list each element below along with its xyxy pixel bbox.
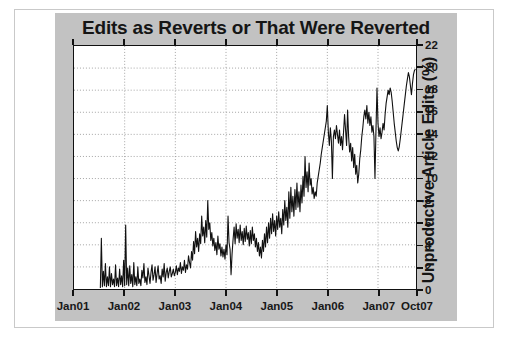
x-axis-tick-mark-top xyxy=(225,39,227,45)
y-axis-title: Unproductive Article Edits (%) xyxy=(418,0,440,33)
x-axis-tick-mark xyxy=(327,290,329,296)
x-axis-tick-mark xyxy=(225,290,227,296)
x-axis-tick-mark xyxy=(378,290,380,296)
x-axis-tick-mark-top xyxy=(327,39,329,45)
x-axis-tick-mark xyxy=(174,290,176,296)
series-layer xyxy=(100,69,415,288)
x-axis-tick-mark-top xyxy=(378,39,380,45)
chart-panel: Edits as Reverts or That Were Reverted 0… xyxy=(55,13,457,321)
x-axis-tick-mark xyxy=(276,290,278,296)
y-axis-title-text: Unproductive Article Edits (%) xyxy=(418,35,440,305)
x-axis-tick-mark-top xyxy=(123,39,125,45)
x-axis-tick-mark-top xyxy=(174,39,176,45)
series-line-0 xyxy=(100,69,415,288)
plot-area xyxy=(73,45,417,290)
plot-svg xyxy=(74,46,416,289)
x-axis-tick-mark xyxy=(72,290,74,296)
x-axis-tick-mark-top xyxy=(276,39,278,45)
figure-root: Edits as Reverts or That Were Reverted 0… xyxy=(0,0,507,340)
x-axis-tick-mark xyxy=(123,290,125,296)
x-axis-tick-mark-top xyxy=(72,39,74,45)
chart-title: Edits as Reverts or That Were Reverted xyxy=(55,14,457,42)
